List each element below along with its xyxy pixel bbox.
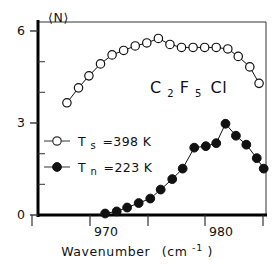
chart-svg: 0 3 6 970 980 ⟨N⟩ Wavenumber (cm -1 ) C … xyxy=(0,0,275,264)
data-point xyxy=(96,60,104,68)
y-tick-label-6: 6 xyxy=(17,23,25,38)
x-tick-label-980: 980 xyxy=(209,224,233,239)
data-point xyxy=(177,43,185,51)
legend-open-circle-icon xyxy=(53,137,61,145)
legend-tn-subscript: n xyxy=(90,166,97,177)
y-tick-label-0: 0 xyxy=(17,207,25,222)
data-point xyxy=(85,72,93,80)
x-axis-unit-open: (cm xyxy=(162,244,188,259)
species-c: C xyxy=(150,78,162,97)
data-point xyxy=(143,39,151,47)
data-point xyxy=(101,209,110,218)
x-tick-label-970: 970 xyxy=(94,224,118,239)
legend-ts-value: =398 K xyxy=(102,134,151,149)
data-point xyxy=(189,43,197,51)
legend-label-ts: T s =398 K xyxy=(77,134,152,152)
data-point xyxy=(154,34,162,42)
species-cl: Cl xyxy=(211,78,228,97)
legend-ts-subscript: s xyxy=(90,140,96,151)
data-point xyxy=(131,42,139,50)
data-point xyxy=(224,45,232,53)
x-axis-unit-close: ) xyxy=(207,244,212,259)
data-point xyxy=(259,164,268,173)
data-point xyxy=(246,63,254,71)
y-axis-title: ⟨N⟩ xyxy=(48,10,69,25)
data-point xyxy=(200,43,208,51)
y-tick-label-3: 3 xyxy=(17,115,25,130)
data-point xyxy=(63,99,71,107)
data-point xyxy=(134,199,143,208)
data-point xyxy=(212,139,221,148)
data-point xyxy=(168,175,177,184)
data-point xyxy=(255,79,263,87)
x-axis-title-group: Wavenumber (cm -1 ) xyxy=(61,239,213,259)
data-point xyxy=(212,43,220,51)
data-point xyxy=(112,207,121,216)
legend-tn-value: =223 K xyxy=(104,160,153,175)
figure-container: 0 3 6 970 980 ⟨N⟩ Wavenumber (cm -1 ) C … xyxy=(0,0,275,264)
data-point xyxy=(190,143,199,152)
data-point xyxy=(123,203,132,212)
data-point xyxy=(232,131,241,140)
data-point xyxy=(156,185,165,194)
data-series-layer xyxy=(63,34,268,218)
data-point xyxy=(221,119,230,128)
species-annotation: C 2 F 5 Cl xyxy=(150,78,227,101)
x-axis-title-text: Wavenumber xyxy=(61,244,150,259)
species-sub-5: 5 xyxy=(195,88,202,99)
data-point xyxy=(252,154,261,163)
legend-filled-circle-icon xyxy=(53,163,62,172)
legend-label-tn: T n =223 K xyxy=(77,160,153,178)
data-point xyxy=(74,84,82,92)
data-point xyxy=(234,52,242,60)
data-point xyxy=(108,51,116,59)
data-point xyxy=(166,40,174,48)
data-point xyxy=(178,164,187,173)
data-point xyxy=(201,142,210,151)
legend-tn-symbol: T xyxy=(77,160,86,175)
species-sub-2: 2 xyxy=(167,88,174,99)
species-f: F xyxy=(180,78,190,97)
x-axis-unit-exponent: -1 xyxy=(192,242,203,253)
data-point xyxy=(119,46,127,54)
legend-ts-symbol: T xyxy=(77,134,86,149)
data-point xyxy=(146,194,155,203)
legend: T s =398 K T n =223 K xyxy=(44,134,153,178)
data-point xyxy=(242,140,251,149)
